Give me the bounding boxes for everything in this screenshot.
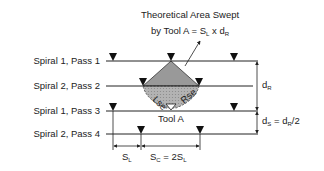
pass-label-4: Spiral 2, Pass 4 (33, 128, 100, 139)
tool-marker-icon (109, 53, 117, 61)
tool-marker-icon (109, 103, 117, 111)
dim-SC-label: SC = 2SL (150, 151, 187, 163)
spiral-pass-diagram: Theoretical Area Swept by Tool A = SL x … (0, 0, 324, 171)
swept-area-top (143, 61, 199, 86)
pass-label-1: Spiral 1, Pass 1 (33, 55, 100, 66)
tool-a-label: Tool A (158, 113, 185, 124)
dim-SL-label: SL (122, 151, 132, 163)
tool-marker-icon (137, 126, 145, 134)
title-leader-arrow (185, 41, 200, 66)
tool-marker-icon (167, 53, 175, 61)
tool-marker-icon (230, 103, 238, 111)
dim-dR-label: dR (262, 79, 272, 91)
dim-dS-label: dS = dR/2 (262, 115, 300, 127)
pass-label-3: Spiral 1, Pass 3 (33, 105, 100, 116)
title-line2: by Tool A = SL x dR (151, 25, 230, 37)
title-line1: Theoretical Area Swept (141, 9, 240, 20)
tool-marker-icon (230, 53, 238, 61)
pass-label-2: Spiral 2, Pass 2 (33, 80, 100, 91)
tool-marker-icon (196, 126, 204, 134)
